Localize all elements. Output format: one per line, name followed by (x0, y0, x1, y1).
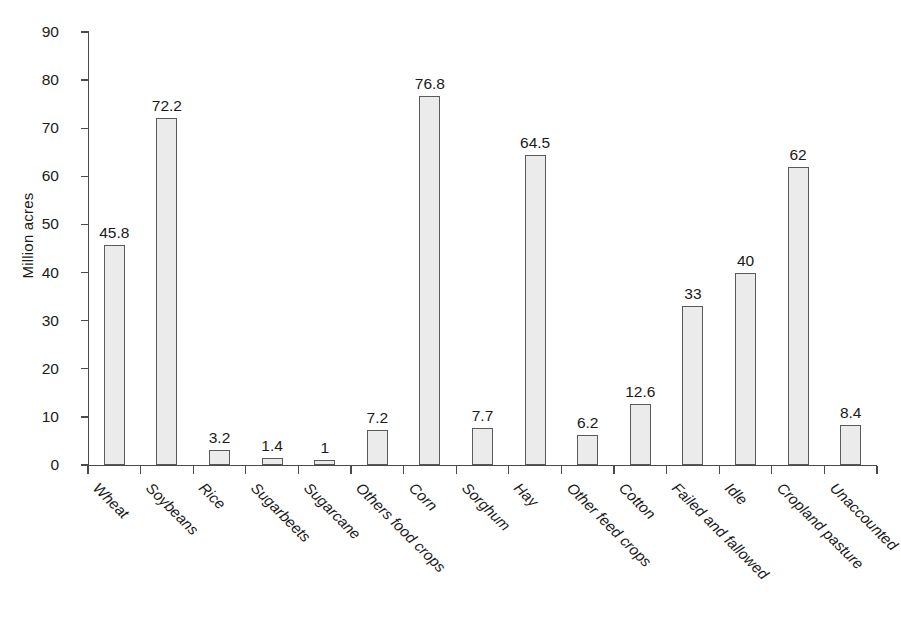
bar (788, 167, 809, 465)
bar-value-label: 72.2 (152, 97, 182, 115)
bar (156, 118, 177, 465)
x-tick-mark (87, 466, 88, 474)
bar (104, 245, 125, 465)
x-tick-mark (508, 466, 509, 474)
bar (630, 404, 651, 465)
bar-value-label: 64.5 (520, 134, 550, 152)
bar-value-label: 8.4 (840, 404, 862, 422)
y-tick-label: 50 (0, 215, 62, 233)
x-tick-mark (824, 466, 825, 474)
bar (262, 458, 283, 465)
y-tick-mark (81, 416, 88, 417)
bar-value-label: 12.6 (625, 383, 655, 401)
bar (525, 155, 546, 465)
x-tick-mark (245, 466, 246, 474)
bar (682, 306, 703, 465)
x-category-label: Failed and fallowed (669, 479, 772, 582)
bar-value-label: 1 (320, 439, 329, 457)
bar-value-label: 62 (789, 146, 806, 164)
y-tick-mark (81, 176, 88, 177)
y-tick-mark (81, 79, 88, 80)
y-tick-label: 70 (0, 119, 62, 137)
bar-value-label: 76.8 (415, 75, 445, 93)
x-tick-mark (350, 466, 351, 474)
y-tick-label: 90 (0, 23, 62, 41)
y-tick-mark (81, 272, 88, 273)
y-tick-label: 80 (0, 71, 62, 89)
bar (472, 428, 493, 465)
bar-value-label: 33 (684, 285, 701, 303)
x-tick-mark (613, 466, 614, 474)
bar-value-label: 7.2 (367, 409, 389, 427)
y-tick-label: 20 (0, 360, 62, 378)
y-tick-label: 0 (0, 456, 62, 474)
bar-value-label: 1.4 (261, 437, 283, 455)
x-tick-mark (561, 466, 562, 474)
x-tick-mark (403, 466, 404, 474)
x-tick-mark (298, 466, 299, 474)
x-category-label: Soybeans (143, 479, 202, 538)
x-tick-mark (193, 466, 194, 474)
y-tick-mark (81, 368, 88, 369)
bar (419, 96, 440, 465)
x-tick-mark (876, 466, 877, 474)
y-tick-mark (81, 320, 88, 321)
bar-value-label: 7.7 (472, 407, 494, 425)
x-category-label: Rice (195, 479, 228, 512)
x-tick-mark (140, 466, 141, 474)
x-tick-mark (771, 466, 772, 474)
bar-value-label: 40 (737, 252, 754, 270)
bar (314, 460, 335, 465)
bar (209, 450, 230, 465)
bar-value-label: 45.8 (99, 224, 129, 242)
y-tick-mark (81, 31, 88, 32)
x-tick-mark (666, 466, 667, 474)
x-category-label: Corn (406, 479, 441, 514)
x-category-label: Wheat (90, 479, 133, 522)
bar-value-label: 6.2 (577, 414, 599, 432)
x-category-label: Sorghum (458, 479, 513, 534)
y-tick-label: 40 (0, 264, 62, 282)
y-tick-label: 10 (0, 408, 62, 426)
y-axis-line (88, 31, 89, 466)
y-tick-label: 60 (0, 167, 62, 185)
bar (577, 435, 598, 465)
x-category-label: Hay (511, 479, 542, 510)
y-tick-mark (81, 224, 88, 225)
x-axis-line (88, 465, 877, 466)
bar (735, 273, 756, 465)
x-tick-mark (719, 466, 720, 474)
y-tick-label: 30 (0, 312, 62, 330)
bar-value-label: 3.2 (209, 429, 231, 447)
y-tick-mark (81, 128, 88, 129)
bar (840, 425, 861, 465)
x-tick-mark (456, 466, 457, 474)
bar (367, 430, 388, 465)
x-category-label: Idle (721, 479, 750, 508)
x-category-label: Others food crops (353, 479, 449, 575)
x-category-label: Cotton (616, 479, 659, 522)
